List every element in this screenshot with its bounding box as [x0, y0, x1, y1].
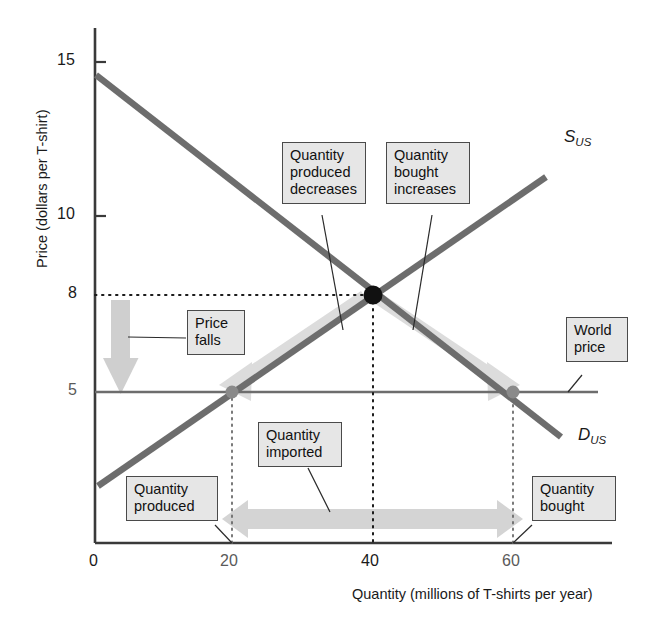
quantity-produced-point	[226, 386, 239, 399]
y-tick-label-5: 5	[68, 381, 77, 399]
demand-curve-label-sub: US	[590, 434, 606, 446]
callout-quantity-imported: Quantity imported	[258, 422, 342, 467]
supply-curve-label-sub: US	[575, 136, 591, 148]
x-tick-label-40: 40	[361, 552, 379, 570]
supply-curve-label: SUS	[564, 127, 591, 148]
leader-line-quantity-imported	[308, 468, 330, 512]
callout-world-price: World price	[566, 317, 628, 362]
demand-curve-dus	[96, 75, 561, 437]
x-axis-title: Quantity (millions of T-shirts per year)	[352, 586, 593, 602]
economics-chart-figure: Price (dollars per T-shirt) Quantity (mi…	[0, 0, 655, 623]
x-tick-label-20: 20	[220, 552, 238, 570]
callout-quantity-produced-decreases: Quantity produced decreases	[282, 142, 366, 204]
leader-line-quantity-bought	[513, 525, 532, 543]
supply-curve-label-main: S	[564, 127, 575, 146]
callout-quantity-bought-increases: Quantity bought increases	[386, 142, 470, 204]
price-falls-arrow	[103, 300, 139, 394]
no-trade-equilibrium-point	[364, 286, 383, 305]
y-tick-label-10: 10	[57, 205, 75, 223]
callout-quantity-produced: Quantity produced	[126, 476, 218, 521]
leader-line-price-falls	[128, 337, 186, 338]
chart-canvas	[0, 0, 655, 623]
x-tick-label-60: 60	[502, 552, 520, 570]
leader-line-quantity-produced	[215, 525, 232, 543]
demand-curve-label-main: D	[578, 425, 590, 444]
demand-curve-label: DUS	[578, 425, 606, 446]
leader-line-world-price	[568, 375, 582, 392]
callout-quantity-bought: Quantity bought	[532, 476, 616, 521]
y-axis-title: Price (dollars per T-shirt)	[34, 110, 50, 268]
x-tick-label-0: 0	[89, 552, 98, 570]
quantity-bought-point	[507, 386, 520, 399]
leader-line-bought-increases	[413, 215, 432, 330]
callout-price-falls: Price falls	[187, 310, 245, 355]
y-tick-label-8: 8	[68, 284, 77, 302]
y-tick-label-15: 15	[57, 51, 75, 69]
